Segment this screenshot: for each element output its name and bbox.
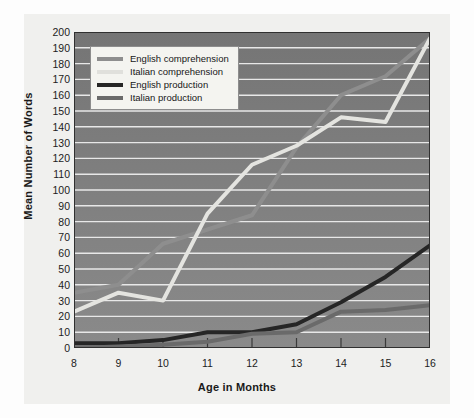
y-tick-label: 130 xyxy=(40,138,70,148)
y-tick-label: 70 xyxy=(40,232,70,242)
chart-legend: English comprehensionItalian comprehensi… xyxy=(90,46,239,110)
x-tick-label: 11 xyxy=(196,357,220,369)
x-tick-label: 15 xyxy=(374,357,398,369)
legend-item: Italian comprehension xyxy=(97,65,229,78)
y-tick-label: 60 xyxy=(40,248,70,258)
legend-swatch-icon xyxy=(97,57,123,61)
x-axis-title: Age in Months xyxy=(0,381,474,393)
y-tick-label: 80 xyxy=(40,217,70,227)
legend-label: Italian production xyxy=(130,92,202,103)
y-tick-label: 180 xyxy=(40,59,70,69)
legend-item: English comprehension xyxy=(97,52,229,65)
x-axis-tick-labels: 8910111213141516 xyxy=(0,357,474,373)
y-tick-label: 30 xyxy=(40,296,70,306)
y-tick-label: 50 xyxy=(40,264,70,274)
y-tick-label: 100 xyxy=(40,185,70,195)
y-tick-label: 110 xyxy=(40,169,70,179)
x-tick-label: 9 xyxy=(107,357,131,369)
legend-swatch-icon xyxy=(97,96,123,100)
y-tick-label: 170 xyxy=(40,74,70,84)
x-tick-label: 13 xyxy=(285,357,309,369)
legend-item: Italian production xyxy=(97,91,229,104)
y-tick-label: 160 xyxy=(40,90,70,100)
y-axis-title: Mean Number of Words xyxy=(22,76,34,236)
y-axis-tick-labels: 0102030405060708090100110120130140150160… xyxy=(36,0,70,418)
y-tick-label: 90 xyxy=(40,201,70,211)
legend-label: English production xyxy=(130,79,208,90)
y-tick-label: 140 xyxy=(40,122,70,132)
y-tick-label: 20 xyxy=(40,311,70,321)
y-tick-label: 120 xyxy=(40,153,70,163)
x-tick-label: 12 xyxy=(240,357,264,369)
y-tick-label: 190 xyxy=(40,43,70,53)
x-tick-label: 8 xyxy=(62,357,86,369)
legend-label: English comprehension xyxy=(130,53,229,64)
x-tick-label: 10 xyxy=(151,357,175,369)
y-tick-label: 150 xyxy=(40,106,70,116)
y-tick-label: 10 xyxy=(40,327,70,337)
y-tick-label: 40 xyxy=(40,280,70,290)
chart-figure: 0102030405060708090100110120130140150160… xyxy=(0,0,474,418)
legend-swatch-icon xyxy=(97,83,123,87)
y-tick-label: 0 xyxy=(40,343,70,353)
x-tick-label: 14 xyxy=(329,357,353,369)
x-tick-label: 16 xyxy=(418,357,442,369)
legend-swatch-icon xyxy=(97,70,123,74)
legend-label: Italian comprehension xyxy=(130,66,223,77)
y-tick-label: 200 xyxy=(40,27,70,37)
legend-item: English production xyxy=(97,78,229,91)
